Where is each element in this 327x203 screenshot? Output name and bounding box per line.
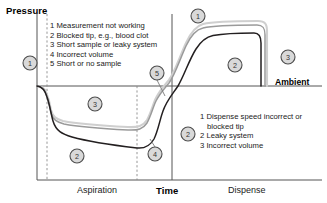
legend-item: 4 Incorrect volume xyxy=(50,50,157,60)
legend-item-number: 2 xyxy=(50,31,54,40)
legend-item-text: Blocked tip, e.g., blood clot xyxy=(56,31,148,40)
callout-1-left: 1 xyxy=(23,56,37,70)
svg-text:3: 3 xyxy=(93,100,97,109)
legend-item-number: 4 xyxy=(50,50,54,59)
legend-item-text: Incorrect volume xyxy=(206,141,263,150)
legend-item-number: 1 xyxy=(200,112,204,121)
legend-item-text: Measurement not working xyxy=(56,21,144,30)
legend-item: 3 Incorrect volume xyxy=(200,141,302,151)
legend-item-text: Dispense speed incorrect or xyxy=(206,112,302,121)
svg-text:1: 1 xyxy=(196,12,200,21)
legend-item-text: Short or no sample xyxy=(56,59,121,68)
callout-2-legend: 2 xyxy=(181,127,195,141)
phase-label-dispense: Dispense xyxy=(228,186,266,196)
legend-item-number: 2 xyxy=(200,131,204,140)
legend-item: 1 Measurement not working xyxy=(50,21,157,31)
y-axis-title: Pressure xyxy=(6,6,47,16)
callout-2-aspiration: 2 xyxy=(70,149,84,163)
svg-text:2: 2 xyxy=(75,152,79,161)
svg-text:2: 2 xyxy=(233,61,237,70)
legend-item-number: 1 xyxy=(50,21,54,30)
callout-4-aspiration: 4 xyxy=(148,147,162,161)
svg-text:2: 2 xyxy=(186,130,190,139)
svg-text:1: 1 xyxy=(28,59,32,68)
svg-text:4: 4 xyxy=(153,150,157,159)
svg-text:5: 5 xyxy=(155,69,159,78)
legend-item: 5 Short or no sample xyxy=(50,59,157,69)
legend-item-text: blocked tip xyxy=(207,122,244,131)
legend-item-text: Leaky system xyxy=(206,131,253,140)
legend-item-number: 3 xyxy=(200,141,204,150)
ambient-label: Ambient xyxy=(275,78,309,87)
phase-label-aspiration: Aspiration xyxy=(77,186,117,196)
svg-text:3: 3 xyxy=(286,53,290,62)
legend-item-text: Incorrect volume xyxy=(56,50,113,59)
legend-item-text: Short sample or leaky system xyxy=(56,40,157,49)
legend-item-number: 3 xyxy=(50,40,54,49)
legend-item: 2 Blocked tip, e.g., blood clot xyxy=(50,31,157,41)
aspiration-legend: 1 Measurement not working 2 Blocked tip,… xyxy=(50,21,157,69)
x-axis-title: Time xyxy=(156,186,178,196)
pressure-time-diagram: 1 3 2 4 5 1 2 3 xyxy=(0,0,327,203)
legend-item: 1 Dispense speed incorrect or xyxy=(200,112,302,122)
callout-3-dispense: 3 xyxy=(281,50,295,64)
legend-item-continuation: blocked tip xyxy=(200,122,302,132)
legend-item: 3 Short sample or leaky system xyxy=(50,40,157,50)
callout-3-aspiration: 3 xyxy=(88,97,102,111)
legend-item-number: 5 xyxy=(50,59,54,68)
legend-item: 2 Leaky system xyxy=(200,131,302,141)
callout-2-dispense: 2 xyxy=(228,58,242,72)
callout-1-dispense: 1 xyxy=(191,9,205,23)
dispense-legend: 1 Dispense speed incorrect or blocked ti… xyxy=(200,112,302,150)
